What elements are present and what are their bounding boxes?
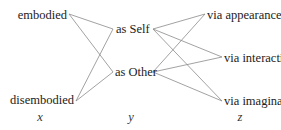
edge-disembodied-to-other (76, 72, 113, 101)
edge-other-to-imagination (153, 72, 222, 101)
edge-other-to-interaction (153, 57, 222, 72)
edge-embodied-to-self (69, 14, 113, 29)
edge-self-to-imagination (153, 29, 222, 101)
edge-other-to-appearance (153, 14, 205, 72)
node-via-appearance: via appearance (207, 8, 281, 22)
node-as-other: as Other (115, 65, 158, 79)
axis-label-z: z (237, 110, 243, 124)
axis-label-x: x (36, 110, 43, 124)
node-via-imagination: via imagination (224, 94, 281, 108)
tripartite-diagram: embodied disembodied as Self as Other vi… (0, 0, 281, 130)
node-as-self: as Self (116, 22, 151, 36)
edge-self-to-appearance (153, 14, 205, 29)
edge-embodied-to-other (69, 14, 113, 72)
axis-label-y: y (126, 110, 134, 124)
node-embodied: embodied (18, 8, 68, 22)
node-via-interaction: via interaction (224, 51, 281, 65)
node-disembodied: disembodied (10, 93, 75, 107)
